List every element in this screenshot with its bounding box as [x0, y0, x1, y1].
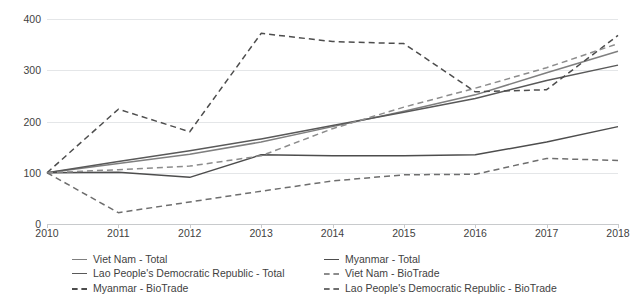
- legend-item-label: Myanmar - Total: [345, 254, 420, 265]
- y-axis-tick-label: 400: [9, 14, 41, 24]
- legend-item-label: Viet Nam - Total: [93, 254, 167, 265]
- chart-legend: Viet Nam - TotalLao People's Democratic …: [72, 252, 612, 298]
- legend-item[interactable]: Lao People's Democratic Republic - BioTr…: [324, 281, 557, 296]
- x-axis-tick-label: 2010: [35, 228, 58, 239]
- legend-item-label: Lao People's Democratic Republic - Total: [93, 268, 285, 279]
- legend-item[interactable]: Myanmar - BioTrade: [72, 281, 285, 296]
- legend-item-label: Lao People's Democratic Republic - BioTr…: [345, 283, 557, 294]
- series-line: [47, 158, 618, 212]
- x-axis-tick-label: 2012: [178, 228, 201, 239]
- legend-item[interactable]: Lao People's Democratic Republic - Total: [72, 267, 285, 282]
- solid-line-icon: [324, 255, 339, 264]
- series-line: [47, 65, 618, 173]
- x-axis-tick-label: 2013: [249, 228, 272, 239]
- x-axis: 201020112012201320142015201620172018: [47, 228, 618, 242]
- x-axis-tick-label: 2014: [321, 228, 344, 239]
- y-axis: 0100200300400: [0, 19, 41, 224]
- legend-item[interactable]: Myanmar - Total: [324, 252, 557, 267]
- x-axis-tick-label: 2016: [464, 228, 487, 239]
- series-line: [47, 33, 618, 172]
- legend-item[interactable]: Viet Nam - BioTrade: [324, 267, 557, 282]
- y-axis-tick-label: 200: [9, 117, 41, 127]
- plot-area: [47, 19, 618, 224]
- x-axis-tick-label: 2011: [107, 228, 130, 239]
- x-axis-tick-label: 2017: [535, 228, 558, 239]
- x-axis-tick-label: 2018: [606, 228, 629, 239]
- solid-line-icon: [72, 255, 87, 264]
- series-line: [47, 127, 618, 178]
- series-line: [47, 44, 618, 173]
- dashed-line-icon: [324, 284, 339, 293]
- legend-item-label: Viet Nam - BioTrade: [345, 268, 440, 279]
- series-layer: [47, 19, 618, 224]
- y-axis-tick-label: 300: [9, 65, 41, 75]
- x-axis-tick-label: 2015: [392, 228, 415, 239]
- dashed-line-icon: [72, 284, 87, 293]
- series-line: [47, 51, 618, 172]
- dashed-line-icon: [324, 269, 339, 278]
- solid-line-icon: [72, 269, 87, 278]
- y-axis-tick-label: 100: [9, 168, 41, 178]
- legend-item[interactable]: Viet Nam - Total: [72, 252, 285, 267]
- legend-column-right: Myanmar - TotalViet Nam - BioTradeLao Pe…: [324, 252, 557, 296]
- legend-item-label: Myanmar - BioTrade: [93, 283, 188, 294]
- legend-column-left: Viet Nam - TotalLao People's Democratic …: [72, 252, 285, 296]
